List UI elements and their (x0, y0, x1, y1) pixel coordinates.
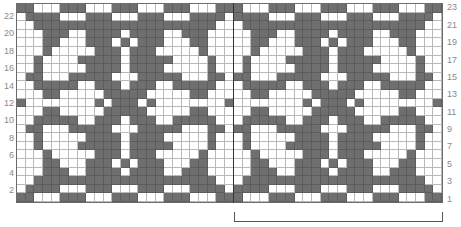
chart-cell (104, 13, 113, 22)
chart-cell (355, 133, 364, 142)
chart-cell (329, 47, 338, 56)
chart-cell (407, 47, 416, 56)
chart-cell (355, 38, 364, 47)
chart-cell (433, 107, 442, 116)
chart-cell (60, 185, 69, 194)
chart-cell (95, 159, 104, 168)
chart-cell (390, 38, 399, 47)
chart-cell (347, 99, 356, 108)
chart-cell (390, 21, 399, 30)
chart-cell (416, 185, 425, 194)
chart-cell (69, 159, 78, 168)
chart-cell (234, 30, 243, 39)
chart-cell (399, 64, 408, 73)
chart-cell (173, 56, 182, 65)
chart-cell (234, 116, 243, 125)
chart-cell (182, 176, 191, 185)
chart-cell (269, 4, 278, 13)
chart-cell (260, 159, 269, 168)
chart-cell (208, 90, 217, 99)
chart-cell (251, 90, 260, 99)
chart-cell (390, 116, 399, 125)
chart-cell (390, 90, 399, 99)
chart-cell (69, 133, 78, 142)
chart-cell (86, 90, 95, 99)
chart-cell (286, 90, 295, 99)
chart-cell (95, 13, 104, 22)
chart-cell (433, 159, 442, 168)
chart-cell (390, 4, 399, 13)
chart-cell (121, 38, 130, 47)
chart-cell (130, 193, 139, 202)
chart-cell (147, 125, 156, 134)
chart-cell (390, 168, 399, 177)
chart-cell (329, 90, 338, 99)
chart-cell (286, 133, 295, 142)
chart-cell (407, 176, 416, 185)
chart-cell (138, 21, 147, 30)
chart-cell (69, 13, 78, 22)
chart-cell (17, 185, 26, 194)
chart-cell (104, 116, 113, 125)
chart-cell (260, 81, 269, 90)
chart-cell (17, 168, 26, 177)
chart-cell (156, 90, 165, 99)
chart-cell (69, 30, 78, 39)
chart-cell (138, 107, 147, 116)
chart-cell (399, 13, 408, 22)
chart-cell (190, 4, 199, 13)
chart-cell (407, 142, 416, 151)
chart-cell (138, 159, 147, 168)
chart-cell (277, 193, 286, 202)
chart-cell (156, 64, 165, 73)
chart-cell (43, 4, 52, 13)
row-number-label: 21 (447, 20, 461, 30)
chart-cell (86, 193, 95, 202)
chart-cell (355, 125, 364, 134)
chart-cell (121, 107, 130, 116)
chart-cell (43, 133, 52, 142)
chart-cell (295, 159, 304, 168)
chart-cell (147, 73, 156, 82)
chart-cell (286, 56, 295, 65)
chart-cell (425, 30, 434, 39)
chart-cell (216, 21, 225, 30)
chart-cell (173, 81, 182, 90)
chart-cell (26, 21, 35, 30)
chart-cell (286, 30, 295, 39)
chart-cell (425, 4, 434, 13)
chart-cell (130, 99, 139, 108)
chart-cell (121, 64, 130, 73)
chart-cell (17, 116, 26, 125)
chart-cell (390, 47, 399, 56)
chart-cell (373, 176, 382, 185)
chart-cell (338, 73, 347, 82)
chart-cell (407, 81, 416, 90)
chart-cell (234, 133, 243, 142)
chart-cell (138, 4, 147, 13)
chart-cell (277, 21, 286, 30)
chart-cell (104, 99, 113, 108)
chart-cell (347, 107, 356, 116)
chart-cell (355, 176, 364, 185)
chart-cell (147, 56, 156, 65)
chart-cell (216, 168, 225, 177)
chart-cell (173, 30, 182, 39)
chart-cell (26, 176, 35, 185)
chart-cell (216, 13, 225, 22)
chart-cell (43, 47, 52, 56)
chart-cell (312, 107, 321, 116)
chart-cell (173, 4, 182, 13)
chart-cell (399, 38, 408, 47)
chart-cell (381, 185, 390, 194)
row-number-label: 20 (1, 28, 14, 38)
chart-cell (269, 116, 278, 125)
chart-cell (277, 150, 286, 159)
chart-cell (190, 125, 199, 134)
chart-cell (121, 159, 130, 168)
chart-cell (390, 159, 399, 168)
chart-cell (34, 13, 43, 22)
chart-cell (52, 142, 61, 151)
chart-cell (147, 142, 156, 151)
chart-cell (338, 38, 347, 47)
